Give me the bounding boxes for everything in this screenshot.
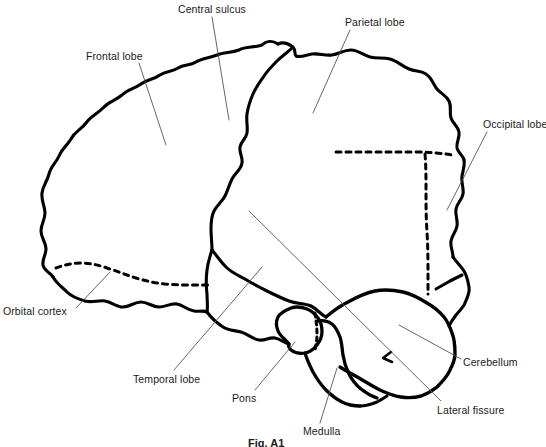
medulla-cerebellum-notch (383, 352, 392, 362)
label-temporal-lobe: Temporal lobe (133, 373, 200, 385)
temporal-pole-outline (206, 250, 212, 312)
medulla-shape (318, 321, 377, 398)
label-pons: Pons (232, 392, 256, 404)
parieto-occipital-dashed-vertical (425, 154, 428, 294)
label-occipital-lobe: Occipital lobe (483, 118, 546, 130)
orbital-dashed-boundary (56, 263, 208, 285)
label-central-sulcus: Central sulcus (178, 3, 246, 15)
cerebellum-tentorium-edge (449, 257, 469, 326)
orbital-frontal-margin (53, 277, 207, 312)
temporal-superior-margin (212, 250, 326, 317)
label-parietal-lobe: Parietal lobe (345, 16, 405, 28)
leader-central-sulcus (212, 17, 229, 120)
brain-diagram-svg (0, 0, 546, 447)
cerebellum-occipital-notch (436, 275, 462, 289)
label-frontal-lobe: Frontal lobe (86, 50, 143, 62)
label-orbital-cortex: Orbital cortex (3, 305, 67, 317)
label-cerebellum: Cerebellum (463, 356, 518, 368)
label-medulla: Medulla (303, 425, 340, 437)
leader-temporal-lobe (174, 267, 262, 370)
occipital-margin (451, 160, 464, 257)
label-lateral-fissure: Lateral fissure (437, 404, 504, 416)
parieto-occipital-dashed-horizontal (336, 152, 452, 155)
leader-pons (255, 342, 295, 390)
brain-diagram-figure: Central sulcus Parietal lobe Frontal lob… (0, 0, 546, 447)
leader-parietal-lobe (313, 30, 350, 113)
figure-caption: Fig. A1 (248, 437, 284, 447)
leader-lateral-fissure (249, 211, 441, 401)
parietal-occipital-outline (278, 43, 464, 160)
central-sulcus-line (211, 48, 292, 250)
leader-occipital-lobe (447, 132, 487, 210)
